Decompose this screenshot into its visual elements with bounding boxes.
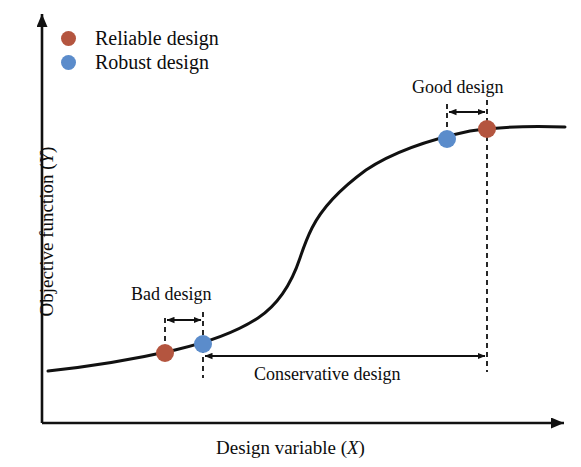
marker-good-robust-design xyxy=(438,130,456,148)
x-axis-symbol: X xyxy=(347,437,359,458)
annotation-label-bad-design: Bad design xyxy=(131,285,212,303)
legend-label-reliable-design: Reliable design xyxy=(95,28,219,48)
y-axis-title: Objective function (Y) xyxy=(37,102,56,362)
marker-good-reliable-design xyxy=(478,120,496,138)
annotation-label-conservative-design: Conservative design xyxy=(254,365,400,383)
marker-bad-reliable-design xyxy=(156,344,174,362)
legend-marker-robust-design xyxy=(61,55,76,70)
y-axis-symbol: Y xyxy=(36,153,57,164)
x-axis-title-text: Design variable xyxy=(216,437,336,458)
x-axis-title: Design variable (X) xyxy=(0,438,581,457)
annotation-label-good-design: Good design xyxy=(412,78,504,96)
marker-bad-robust-design xyxy=(194,335,212,353)
figure-canvas: Reliable design Robust design Bad design… xyxy=(0,0,581,467)
y-axis-title-text: Objective function xyxy=(36,175,57,317)
legend-label-robust-design: Robust design xyxy=(95,52,209,72)
legend-marker-reliable-design xyxy=(61,31,76,46)
figure-vector-layer xyxy=(0,0,581,467)
